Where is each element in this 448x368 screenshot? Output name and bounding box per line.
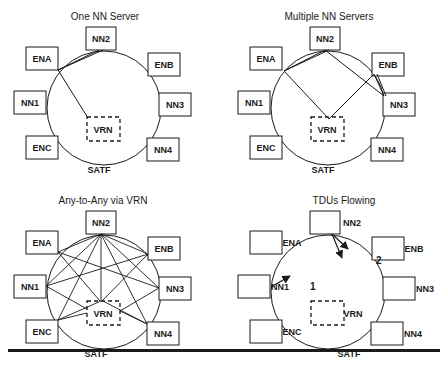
node-nn3: NN3 [166, 100, 184, 110]
node-nn3: NN3 [416, 284, 434, 294]
vrn-label: VRN [93, 125, 112, 135]
node-nn4: NN4 [378, 145, 396, 155]
panel-title: TDUs Flowing [313, 195, 376, 206]
node-nn3: NN3 [390, 100, 408, 110]
vrn-label: VRN [343, 309, 362, 319]
node-ena: ENA [256, 54, 276, 64]
node-nn2: NN2 [92, 34, 110, 44]
node-enc: ENC [32, 327, 52, 337]
satf-label: SATF [312, 165, 335, 175]
flow-label-2: 2 [376, 255, 382, 266]
node-nn3: NN3 [166, 284, 184, 294]
flow-label-1: 1 [310, 281, 316, 292]
node-nn1: NN1 [245, 98, 263, 108]
panel-any-to-any-via-vrn: Any-to-Any via VRN NN2 ENA ENB NN1 NN3 E… [14, 195, 191, 359]
vrn-label: VRN [93, 309, 112, 319]
node-nn2: NN2 [92, 218, 110, 228]
node-ena: ENA [32, 238, 52, 248]
connection-lines [58, 50, 103, 118]
node-nn2: NN2 [343, 218, 361, 228]
node-enb: ENB [154, 60, 174, 70]
panel-tdus-flowing: TDUs Flowing NN2 ENA ENB NN1 NN3 ENC NN4… [238, 195, 434, 359]
node-enc: ENC [32, 143, 52, 153]
node-enb: ENB [378, 60, 398, 70]
vrn-label: VRN [317, 125, 336, 135]
node-nn1: NN1 [21, 98, 39, 108]
node-ena: ENA [32, 54, 52, 64]
node-nn4: NN4 [154, 329, 172, 339]
node-enc: ENC [256, 143, 276, 153]
node-nn4: NN4 [404, 329, 422, 339]
bottom-divider [8, 349, 440, 352]
panel-multiple-nn-servers: Multiple NN Servers NN2 ENA ENB NN1 NN3 … [238, 11, 415, 175]
connection-lines [284, 50, 386, 119]
diagram-canvas: One NN Server NN2 ENA ENB NN1 NN3 ENC NN… [0, 0, 448, 368]
panel-title: One NN Server [71, 11, 140, 22]
node-ena: ENA [282, 238, 302, 248]
node-enb: ENB [154, 244, 174, 254]
panel-one-nn-server: One NN Server NN2 ENA ENB NN1 NN3 ENC NN… [14, 11, 191, 175]
satf-label: SATF [88, 165, 111, 175]
node-nn1: NN1 [21, 282, 39, 292]
panel-title: Any-to-Any via VRN [59, 195, 148, 206]
node-nn1: NN1 [271, 282, 289, 292]
node-nn4: NN4 [154, 145, 172, 155]
node-nn2: NN2 [316, 34, 334, 44]
node-enc: ENC [282, 327, 302, 337]
panel-title: Multiple NN Servers [285, 11, 374, 22]
node-enb: ENB [404, 244, 424, 254]
